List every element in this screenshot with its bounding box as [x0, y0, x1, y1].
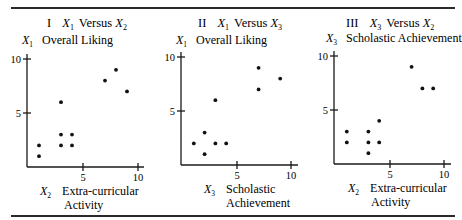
data-point [367, 151, 371, 155]
data-point [345, 141, 349, 145]
data-point [421, 87, 425, 91]
data-point [377, 141, 381, 145]
data-point [367, 130, 371, 134]
x-axis-label-line2: Activity [371, 195, 410, 209]
x-tick-10: 10 [439, 169, 450, 180]
data-point [345, 130, 349, 134]
data-points [345, 65, 435, 155]
data-point [431, 87, 435, 91]
y-axis-label: X3 Scholastic Achievement [325, 31, 462, 48]
x-tick-5: 5 [387, 169, 392, 180]
y-tick-10: 10 [318, 51, 329, 62]
axes [330, 51, 451, 168]
data-point [410, 65, 414, 69]
y-tick-5: 5 [323, 105, 328, 116]
scatter-panel-3: III X3 Versus X2 X3 Scholastic Achieveme… [0, 0, 462, 220]
data-point [367, 141, 371, 145]
data-point [377, 119, 381, 123]
